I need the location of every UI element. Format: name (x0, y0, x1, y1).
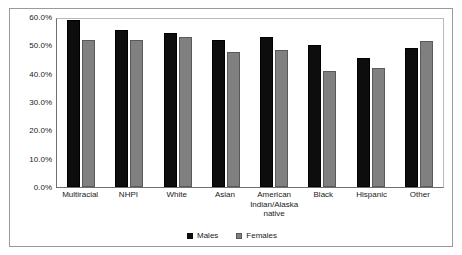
plot-area (56, 18, 444, 188)
x-axis-tick-label: NHPI (104, 190, 152, 200)
legend-item-males[interactable]: Males (187, 231, 218, 240)
bar-group (105, 19, 153, 187)
bar-group (202, 19, 250, 187)
x-axis-tick-label: Other (396, 190, 444, 200)
x-axis: MultiracialNHPIWhiteAsianAmerican Indian… (56, 190, 444, 230)
bar-females[interactable] (179, 37, 192, 187)
y-axis: 60.0%50.0%40.0%30.0%20.0%10.0%0.0% (14, 18, 54, 188)
y-axis-tick-label: 30.0% (29, 99, 52, 107)
bar-females[interactable] (130, 40, 143, 187)
bar-males[interactable] (260, 37, 273, 187)
legend-item-females[interactable]: Females (236, 231, 277, 240)
bars-layer (57, 19, 443, 187)
bar-females[interactable] (323, 71, 336, 187)
bar-group (298, 19, 346, 187)
bar-females[interactable] (82, 40, 95, 187)
bar-males[interactable] (115, 30, 128, 187)
legend-swatch-icon (187, 233, 193, 239)
chart-legend: MalesFemales (10, 231, 454, 240)
bar-females[interactable] (420, 41, 433, 187)
bar-males[interactable] (212, 40, 225, 187)
bar-males[interactable] (357, 58, 370, 187)
bar-females[interactable] (275, 50, 288, 187)
legend-label: Females (246, 231, 277, 240)
legend-swatch-icon (236, 233, 242, 239)
y-axis-tick-label: 40.0% (29, 71, 52, 79)
x-axis-tick-label: White (153, 190, 201, 200)
y-axis-tick-label: 60.0% (29, 14, 52, 22)
bar-group (154, 19, 202, 187)
y-axis-tick-label: 20.0% (29, 127, 52, 135)
bar-females[interactable] (227, 52, 240, 187)
x-axis-tick-label: American Indian/Alaska native (249, 190, 299, 219)
chart-frame: 60.0%50.0%40.0%30.0%20.0%10.0%0.0% Multi… (9, 8, 453, 247)
legend-label: Males (197, 231, 218, 240)
y-axis-tick-label: 10.0% (29, 156, 52, 164)
x-axis-tick-label: Black (299, 190, 347, 200)
x-axis-tick-label: Asian (201, 190, 249, 200)
y-axis-tick-label: 50.0% (29, 42, 52, 50)
y-axis-tick-label: 0.0% (34, 184, 52, 192)
bar-group (57, 19, 105, 187)
bar-males[interactable] (405, 48, 418, 187)
bar-group (250, 19, 298, 187)
bar-females[interactable] (372, 68, 385, 187)
x-axis-tick-label: Multiracial (56, 190, 104, 200)
bar-group (347, 19, 395, 187)
bar-males[interactable] (67, 20, 80, 187)
chart-plot-wrapper: 60.0%50.0%40.0%30.0%20.0%10.0%0.0% Multi… (10, 9, 452, 246)
x-axis-tick-label: Hispanic (347, 190, 395, 200)
bar-males[interactable] (308, 45, 321, 187)
bar-group (395, 19, 443, 187)
bar-males[interactable] (164, 33, 177, 187)
